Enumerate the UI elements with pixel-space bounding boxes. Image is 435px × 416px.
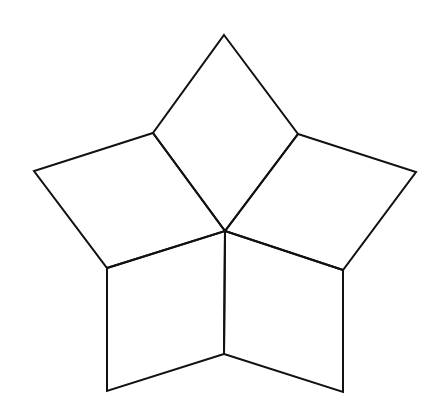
background [0, 0, 435, 416]
star-diagram [0, 0, 435, 416]
